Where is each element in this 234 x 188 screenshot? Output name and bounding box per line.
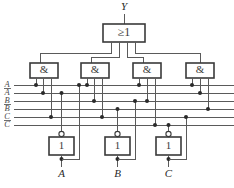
or-gate[interactable]: ≥1 bbox=[103, 24, 145, 50]
junction-and1-a bbox=[34, 83, 38, 87]
junction-inv-a-out bbox=[60, 91, 64, 95]
inverter-b[interactable]: 1 B bbox=[105, 99, 137, 179]
junction-b-bus bbox=[133, 99, 137, 103]
bus-label-c-bar: C bbox=[4, 119, 10, 129]
inverter-c-bubble bbox=[166, 131, 171, 136]
junction-and3-cbar bbox=[153, 123, 157, 127]
junction-and2-b bbox=[92, 99, 96, 103]
inverter-b-bubble bbox=[115, 131, 120, 136]
input-a-label: A bbox=[57, 167, 65, 179]
and-gate-4[interactable]: & bbox=[186, 63, 214, 111]
junction-and4-a bbox=[190, 83, 194, 87]
junction-inv-c-out bbox=[167, 123, 171, 127]
inverter-a[interactable]: 1 A bbox=[49, 83, 81, 179]
junction-a-bus bbox=[77, 83, 81, 87]
route-and4-to-or bbox=[135, 50, 200, 63]
logic-circuit-diagram: Y ≥1 & bbox=[0, 0, 234, 188]
junction-and2-a bbox=[85, 83, 89, 87]
or-gate-label: ≥1 bbox=[118, 25, 131, 39]
output-y-label: Y bbox=[121, 0, 129, 12]
junction-c-bus bbox=[184, 115, 188, 119]
and-gate-4-label: & bbox=[196, 63, 205, 75]
input-c-label: C bbox=[165, 167, 173, 179]
input-b-label: B bbox=[114, 167, 121, 179]
inverter-a-label: 1 bbox=[59, 139, 65, 151]
inverter-c-label: 1 bbox=[166, 139, 172, 151]
bus-labels: A A B B C C bbox=[3, 79, 10, 130]
signal-bus bbox=[14, 85, 234, 125]
inverter-b-label: 1 bbox=[115, 139, 121, 151]
and-gate-3-label: & bbox=[143, 63, 152, 75]
junction-and3-a bbox=[137, 83, 141, 87]
circuit-svg: Y ≥1 & bbox=[0, 0, 234, 188]
junction-and3-b bbox=[145, 99, 149, 103]
and-gate-1[interactable]: & bbox=[30, 63, 58, 119]
junction-and1-abar bbox=[41, 91, 45, 95]
or-fanout-routing bbox=[40, 50, 200, 63]
and-gate-2[interactable]: & bbox=[81, 63, 109, 119]
junction-inv-b-out bbox=[116, 107, 120, 111]
junction-and4-abar bbox=[198, 91, 202, 95]
junction-and2-c bbox=[100, 115, 104, 119]
output-y-group: Y bbox=[121, 0, 129, 24]
junction-and4-bbar bbox=[206, 107, 210, 111]
and-gate-2-label: & bbox=[91, 63, 100, 75]
and-gate-1-label: & bbox=[40, 63, 49, 75]
route-and2-to-or bbox=[91, 50, 119, 63]
inverter-a-bubble bbox=[59, 131, 64, 136]
junction-and1-c bbox=[49, 115, 53, 119]
